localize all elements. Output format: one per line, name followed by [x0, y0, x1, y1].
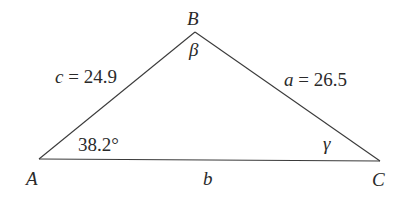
triangle-diagram: B A C β 38.2° γ c = 24.9 a = 26.5 b — [0, 0, 411, 199]
side-c-value: = 24.9 — [63, 66, 116, 87]
angle-beta-label: β — [188, 39, 199, 60]
side-b-edge — [39, 159, 380, 161]
vertex-c-label: C — [372, 169, 385, 190]
side-a-variable: a — [284, 69, 294, 90]
side-c-label: c = 24.9 — [55, 66, 117, 87]
side-a-value: = 26.5 — [294, 69, 347, 90]
vertex-a-label: A — [24, 168, 38, 189]
side-b-label: b — [203, 168, 213, 189]
angle-gamma-label: γ — [323, 133, 331, 154]
vertex-b-label: B — [187, 8, 199, 29]
side-a-edge — [195, 32, 380, 161]
angle-a-value: 38.2° — [78, 134, 119, 155]
side-a-label: a = 26.5 — [284, 69, 347, 90]
